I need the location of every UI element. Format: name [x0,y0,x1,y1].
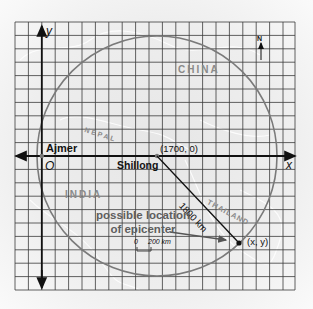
epicenter-coordinates: (x, y) [247,236,268,247]
origin-label: O [45,159,54,173]
coordinate-grid-map [0,0,313,309]
annotation-line-1: possible location [78,208,208,222]
x-axis-label: x [286,158,292,172]
north-label: N [257,35,262,42]
india-label: INDIA [65,189,102,200]
epicenter-point [236,240,241,245]
epicenter-annotation: possible location of epicenter [78,208,208,236]
shillong-coordinates: (1700, 0) [160,143,198,154]
scale-zero: 0 [134,238,138,245]
shillong-label: Shillong [117,159,158,171]
ajmer-label: Ajmer [46,142,77,154]
y-axis-label: y [46,24,52,38]
scale-value: 200 km [148,238,171,245]
ajmer-point [40,154,44,158]
china-label: CHINA [178,64,220,75]
annotation-line-2: of epicenter [78,222,208,236]
